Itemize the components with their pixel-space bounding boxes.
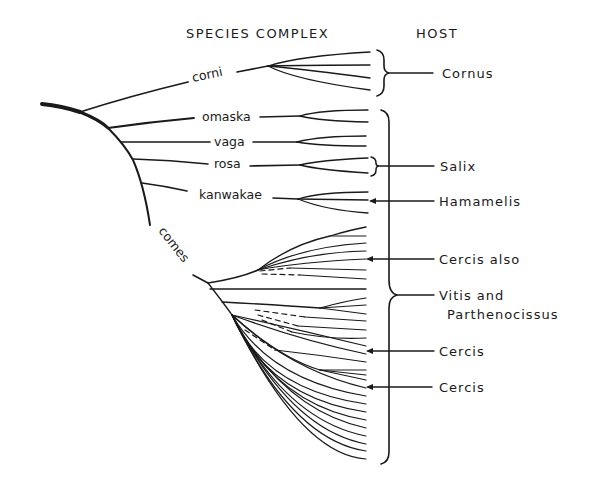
host-label-parthenocissus: Parthenocissus xyxy=(447,307,558,322)
host-cercis-1: Cercis xyxy=(366,344,485,359)
host-cornus: Cornus xyxy=(377,50,493,96)
species-label-omaska: omaska xyxy=(202,109,251,124)
host-label-cercis-also: Cercis also xyxy=(439,252,520,267)
host-cercis-2: Cercis xyxy=(366,380,485,395)
clade-comes xyxy=(193,227,366,459)
species-label-kanwakae: kanwakae xyxy=(199,187,262,202)
clade-omaska: omaska xyxy=(108,109,368,128)
clade-kanwakae: kanwakae xyxy=(142,183,368,213)
host-hamamelis: Hamamelis xyxy=(369,194,521,209)
species-label-corni: corni xyxy=(191,64,224,85)
host-header: HOST xyxy=(416,26,458,41)
clade-vaga: vaga xyxy=(121,134,366,149)
species-complex-header: SPECIES COMPLEX xyxy=(186,26,329,41)
host-salix: Salix xyxy=(371,157,476,176)
phylogeny-diagram: SPECIES COMPLEX HOST corni omaska vaga r… xyxy=(0,0,589,482)
species-label-vaga: vaga xyxy=(214,134,245,149)
host-label-cercis-1: Cercis xyxy=(439,344,485,359)
host-label-vitis: Vitis and xyxy=(439,288,504,303)
species-label-comes: comes xyxy=(156,224,193,265)
clade-rosa: rosa xyxy=(133,156,368,173)
host-label-salix: Salix xyxy=(440,159,476,174)
host-label-cornus: Cornus xyxy=(442,66,493,81)
host-label-hamamelis: Hamamelis xyxy=(439,194,521,209)
clade-corni: corni xyxy=(80,52,370,112)
host-label-cercis-2: Cercis xyxy=(439,380,485,395)
trunk xyxy=(42,104,150,225)
species-label-rosa: rosa xyxy=(214,156,241,171)
